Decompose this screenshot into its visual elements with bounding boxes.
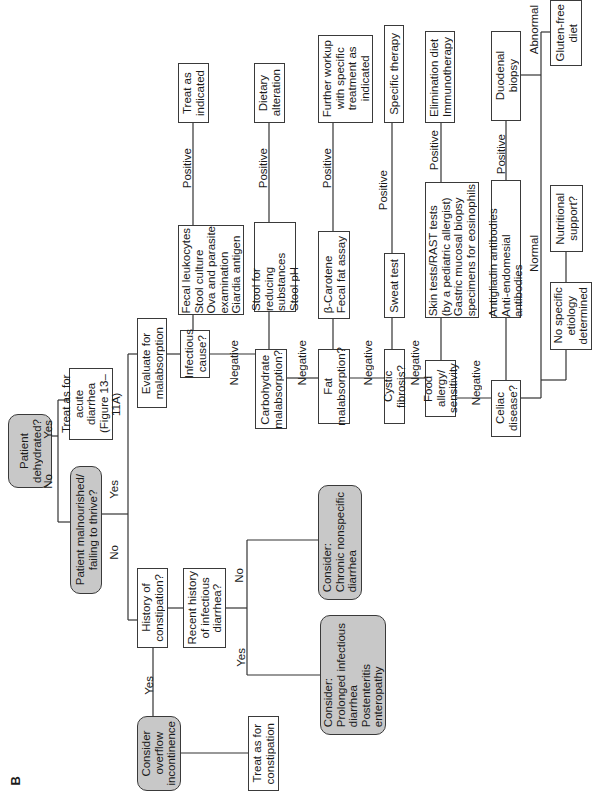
node-label: Skin tests/RAST tests (by a pediatric al… <box>427 184 477 316</box>
edge-label-negative: Negative <box>362 340 374 385</box>
node-chronic-nonspecific: Consider: Chronic nonspecific diarrhea <box>318 485 362 600</box>
node-label: Patient malnourished/ failing to thrive? <box>74 474 99 585</box>
node-label: Treat as for constipation <box>251 723 276 784</box>
node-label: Treat as indicated <box>181 70 206 116</box>
edge-label-yes: Yes <box>235 648 247 667</box>
edge-label-yes: Yes <box>143 676 155 695</box>
node-fat-tests: β-Carotene Fecal fat assay <box>318 231 350 319</box>
node-further-workup: Further workup with specific treatment a… <box>318 35 373 123</box>
edge-label-yes: Yes <box>42 420 54 439</box>
panel-label: B <box>8 776 23 785</box>
node-label: Further workup with specific treatment a… <box>321 40 371 117</box>
node-label: Consider: Prolonged infectious diarrhea … <box>322 623 385 727</box>
node-label: Elimination diet Immunotherapy <box>428 37 453 117</box>
node-label: Infectious cause? <box>183 329 208 378</box>
edge-label-negative: Negative <box>409 340 421 385</box>
node-label: Patient dehydrated? <box>18 419 43 483</box>
node-infectious-tests: Fecal leukocytes Stool culture Ova and p… <box>178 225 244 315</box>
node-carbohydrate-tests: Stool for reducing substances Stool pH <box>254 222 296 312</box>
node-celiac-tests: Antigliadin antibodies Anti-endomesial a… <box>491 180 521 318</box>
node-label: Consider: Chronic nonspecific diarrhea <box>321 492 359 592</box>
node-label: Nutritional support? <box>554 193 579 245</box>
node-evaluate-malabsorption: Evaluate for malabsorption <box>137 318 167 408</box>
edge-label-positive: Positive <box>495 134 507 174</box>
node-label: Antigliadin antibodies Anti-endomesial a… <box>487 181 525 317</box>
node-fat-malabsorption: Fat malabsorption? <box>318 349 350 424</box>
node-celiac-disease: Celiac disease? <box>491 380 521 437</box>
node-gluten-free-diet: Gluten-free diet <box>550 0 582 66</box>
node-overflow-incontinence: Consider overflow incontinence <box>137 716 181 791</box>
node-label: Consider overflow incontinence <box>140 721 178 786</box>
edge-label-negative: Negative <box>228 340 240 385</box>
node-carbohydrate-malabsorption: Carbohydrate malabsorption? <box>255 349 287 429</box>
node-label: Treat as for acute diarrhea (Figure 13–1… <box>60 369 123 439</box>
node-label: Dietary alteration <box>257 69 282 116</box>
node-label: Gluten-free diet <box>554 4 579 62</box>
node-infectious-cause: Infectious cause? <box>180 330 210 378</box>
node-label: Cystic fibrosis? <box>382 350 407 423</box>
edge-label-no: No <box>233 568 245 583</box>
node-duodenal-biopsy: Duodenal biopsy <box>491 31 521 121</box>
node-label: Carbohydrate malabsorption? <box>259 350 284 429</box>
edge-label-negative: Negative <box>470 360 482 405</box>
node-label: Evaluate for malabsorption <box>140 327 165 399</box>
node-allergy-tests: Skin tests/RAST tests (by a pediatric al… <box>425 182 479 318</box>
node-treat-indicated: Treat as indicated <box>178 63 209 123</box>
node-label: Recent history of infectious diarrhea? <box>186 571 224 645</box>
node-recent-infectious-history: Recent history of infectious diarrhea? <box>183 568 226 648</box>
edge-label-positive: Positive <box>321 148 333 188</box>
node-label: Duodenal biopsy <box>494 51 519 100</box>
node-nutritional-support: Nutritional support? <box>550 185 583 252</box>
node-label: Fat malabsorption? <box>322 347 347 426</box>
edge-label-positive: Positive <box>181 148 193 188</box>
node-food-allergy: Food allergy/ sensitivity <box>425 360 456 417</box>
node-no-specific-etiology: No specific etiology determined <box>550 282 592 350</box>
node-label: No specific etiology determined <box>552 287 590 345</box>
node-elimination-diet: Elimination diet Immunotherapy <box>425 31 455 123</box>
node-prolonged-infectious: Consider: Prolonged infectious diarrhea … <box>320 615 386 735</box>
edge-label-abnormal: Abnormal <box>528 5 540 54</box>
node-dietary-alteration: Dietary alteration <box>254 63 285 123</box>
node-treat-constipation: Treat as for constipation <box>248 716 279 791</box>
edge-label-no: No <box>108 545 120 560</box>
node-specific-therapy: Specific therapy <box>384 25 404 123</box>
node-label: Stool for reducing substances Stool pH <box>250 223 300 311</box>
node-treat-acute-diarrhea: Treat as for acute diarrhea (Figure 13–1… <box>69 368 113 440</box>
node-label: History of constipation? <box>140 574 165 642</box>
node-label: Sweat test <box>388 259 401 313</box>
edge-label-positive: Positive <box>257 148 269 188</box>
node-patient-malnourished: Patient malnourished/ failing to thrive? <box>70 466 102 594</box>
edge-label-normal: Normal <box>528 235 540 272</box>
node-label: Specific therapy <box>388 33 401 115</box>
node-label: β-Carotene Fecal fat assay <box>322 236 347 313</box>
edge-label-yes: Yes <box>108 480 120 499</box>
node-cystic-fibrosis: Cystic fibrosis? <box>384 349 405 424</box>
flowchart-canvas: B Patient dehydrated? Treat as for acute… <box>0 0 602 796</box>
edge-label-positive: Positive <box>428 130 440 170</box>
node-label: Fecal leukocytes Stool culture Ova and p… <box>180 226 243 314</box>
edge-label-negative: Negative <box>296 340 308 385</box>
edge-label-positive: Positive <box>377 170 389 210</box>
node-history-constipation: History of constipation? <box>137 568 168 648</box>
edge-label-no: No <box>42 474 54 489</box>
node-sweat-test: Sweat test <box>384 253 405 318</box>
node-label: Celiac disease? <box>494 385 519 431</box>
node-label: Food allergy/ sensitivity <box>422 361 460 416</box>
